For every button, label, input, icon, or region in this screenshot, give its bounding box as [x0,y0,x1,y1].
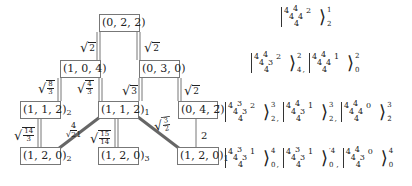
ket-pattern: 4 3 4 3 1 4 [228,147,262,169]
radical-sign: √ [80,40,88,55]
ket-angle-icon: ⟩ [347,54,354,72]
ket-row-1: 4 4 4 3 2 4 ⟩ 24 , 4 4 4 4 1 4 ⟩ 20 [251,52,360,74]
ket-bar [281,7,282,27]
node-1-2-0-sub3: (1, 2, 0)3 [98,147,139,165]
ket-row-2: 4 3 4 3 2 4 ⟩ 32 , 4 4 4 3 1 4 ⟩ 32 , 4 … [225,101,392,123]
node-0-3-0: (0, 3, 0) [139,60,180,78]
ket-angle-icon: ⟩ [289,54,296,72]
ket-angle-icon: ⟩ [319,8,326,26]
node-subscript: 2 [67,108,72,117]
ket-pattern: 4 4 4 3 1 4 [286,101,320,123]
ket-subscript: 2 [327,20,331,28]
ket-angle-icon: ⟩ [379,103,386,121]
edge-weight-sqrt-8-3: √83 [38,80,55,96]
node-subscript: 1 [145,108,150,117]
radical-sign: √ [122,83,130,98]
ket-angle-icon: ⟩ [321,103,328,121]
separator: , [277,114,280,123]
ket-bar [225,102,226,122]
fraction-denominator: 3 [48,89,52,96]
ket-pattern: 4 4 4 4 0 4 [344,101,378,123]
separator: , [336,160,339,169]
edge-weight-sqrt-15-14: √1514 [90,130,111,146]
separator: , [277,160,280,169]
node-label: (1, 2, 0) [23,149,67,162]
ket-bar [225,148,226,168]
fraction-denominator: √21 [66,131,81,139]
node-label: (0, 3, 0) [142,62,186,75]
ket-pattern: 4 4 4 3 0 4 [346,147,380,169]
node-label: (1, 2, 0) [101,149,145,162]
fraction-denominator: 14 [100,139,109,146]
radicand: 3 [130,85,138,96]
edge-weight-sqrt-14-3: √143 [14,127,35,143]
ket-bar [309,53,310,73]
node-label: (1, 2, 0) [180,149,224,162]
ket-pattern: 4 3 4 3 2 4 [228,101,262,123]
radicand: 2 [88,42,96,53]
node-1-2-0-sub2: (1, 2, 0)2 [20,147,61,165]
fraction-denominator: 2 [164,125,169,133]
node-subscript: 2 [67,154,72,163]
ket-pattern: 4 4 4 4 1 4 [312,52,346,74]
ket-bar [251,53,252,73]
ket-angle-icon: ⟩ [263,103,270,121]
node-label: (1, 1, 2) [101,103,145,116]
separator: , [335,114,338,123]
ket-angle-icon: ⟩ [321,149,328,167]
ket-angle-icon: ⟩ [381,149,388,167]
ket-bar [343,148,344,168]
fraction-denominator: 3 [87,89,91,96]
fraction-denominator: 3 [27,136,31,143]
ket-angle-icon: ⟩ [263,149,270,167]
edge-weight-sqrt-3-2: √32 [153,116,172,134]
ket-bar [283,102,284,122]
edge-weight-4-over-sqrt21: 4√21 [66,120,81,139]
edge-weight-sqrt-4-3: √43 [77,80,94,96]
edge-weight-sqrt3: √3 [122,83,138,98]
node-0-2-2: (0, 2, 2) [99,14,140,32]
node-label: (0, 2, 2) [102,16,146,29]
ket-bar [283,148,284,168]
ket-bar [341,102,342,122]
ket-pattern: 4 4 4 3 2 4 [254,52,288,74]
edge-weight-2: 2 [201,130,207,141]
edge-weight-sqrt2-right: √2 [144,40,160,55]
edge-weight-sqrt2-left: √2 [80,40,96,55]
node-1-0-4: (1, 0, 4) [60,60,101,78]
node-subscript: 3 [145,154,150,163]
node-label: (1, 1, 2) [23,103,67,116]
radicand: 2 [192,85,200,96]
ket-pattern: 4 3 4 3 1 4 [286,147,320,169]
node-1-1-2-sub1: (1, 1, 2)1 [98,101,139,119]
node-label: (0, 4, 2̄) [181,103,225,116]
ket-row-3: 4 3 4 3 1 4 ⟩ 40 , 4 3 4 3 1 4 ⟩ ′40 , 4… [225,147,393,169]
edge-weight-sqrt2-far-right: √2 [184,83,200,98]
node-0-4-2bar: (0, 4, 2̄) [178,101,218,119]
radicand: 2 [152,42,160,53]
radical-sign: √ [144,40,152,55]
separator: , [303,65,306,74]
ket-row-0: 4 4 4 4 2 4 ⟩ 12 [281,6,332,28]
node-label: (1, 0, 4) [63,62,107,75]
radical-sign: √ [184,83,192,98]
node-1-1-2-sub2: (1, 1, 2)2 [20,101,61,119]
ket-superscript: 1 [327,6,331,14]
node-1-2-0-sub1: (1, 2, 0)1 [177,147,219,165]
ket-pattern: 4 4 4 4 2 4 [284,6,318,28]
